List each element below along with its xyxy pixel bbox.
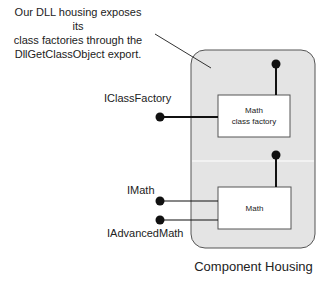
component-housing-label: Component Housing <box>191 259 316 274</box>
callout-line-2: class factories through the <box>8 33 148 47</box>
math-line-1: Math <box>218 203 291 214</box>
iclassfactory-lollipop-icon <box>156 113 165 122</box>
class-factory-iunknown-lollipop-icon <box>272 60 281 69</box>
class-factory-box-label: Math class factory <box>218 105 290 127</box>
iadvancedmath-label: IAdvancedMath <box>107 227 183 239</box>
imath-label: IMath <box>127 184 155 196</box>
math-box-label: Math <box>218 203 291 214</box>
iadvancedmath-lollipop-icon <box>156 216 165 225</box>
imath-lollipop-icon <box>156 197 165 206</box>
math-iunknown-lollipop-icon <box>272 151 281 160</box>
com-housing-diagram: Our DLL housing exposes its class factor… <box>0 0 334 289</box>
class-factory-line-1: Math <box>218 105 290 116</box>
callout-line-3: DllGetClassObject export. <box>8 47 148 61</box>
callout-text: Our DLL housing exposes its class factor… <box>8 5 148 61</box>
class-factory-line-2: class factory <box>218 116 290 127</box>
callout-line-1: Our DLL housing exposes its <box>8 5 148 33</box>
iclassfactory-label: IClassFactory <box>104 92 171 104</box>
